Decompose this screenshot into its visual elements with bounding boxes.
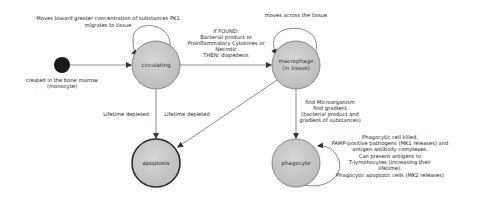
svg-text:gradient of substances): gradient of substances) — [299, 117, 360, 124]
svg-text:lifetime).: lifetime). — [378, 165, 402, 171]
label-phagocyte-self: Phagocytic cell killed, PAMP-positive pa… — [332, 134, 449, 179]
state-circulating-label: circulating — [141, 62, 171, 69]
svg-text:antigen-antibody complexes.: antigen-antibody complexes. — [352, 146, 428, 153]
state-apoptosis[interactable]: apoptosis — [132, 139, 180, 187]
label-circulating-to-apoptosis: Lifetime depleted — [103, 111, 149, 118]
initial-label-line2: (monocyte) — [47, 83, 77, 90]
state-circulating[interactable]: circulating — [132, 41, 180, 89]
label-macrophage-to-phagocyte: find Microorganism find gradient (bacter… — [299, 99, 360, 124]
svg-text:moves across the tissue: moves across the tissue — [265, 12, 328, 18]
state-macrophage-label-line1: macrophage — [278, 58, 314, 65]
state-macrophage-label-line2: (in tissue) — [282, 65, 310, 71]
state-phagocyte[interactable]: phagocyte — [272, 139, 320, 187]
svg-text:THEN: diapedesis: THEN: diapedesis — [202, 52, 249, 59]
state-phagocyte-label: phagocyte — [281, 160, 311, 167]
state-apoptosis-label: apoptosis — [143, 160, 170, 167]
label-circulating-self: Moves toward greater concentration of su… — [36, 15, 180, 29]
state-diagram: created in the bone marrow (monocyte) ci… — [0, 0, 483, 199]
svg-text:Moves toward greater concentra: Moves toward greater concentration of su… — [36, 15, 180, 22]
state-macrophage[interactable]: macrophage (in tissue) — [272, 41, 320, 89]
label-macrophage-self: moves across the tissue — [265, 12, 328, 18]
svg-text:Lifetime depleted: Lifetime depleted — [164, 111, 210, 118]
initial-node[interactable] — [54, 57, 70, 73]
svg-text:Phagocytic apoptotic cells (MK: Phagocytic apoptotic cells (MK2 releases… — [336, 172, 444, 179]
label-circulating-to-macrophage: If FOUND: Bacterial product or Proinflam… — [187, 28, 265, 59]
svg-text:migrates to tissue: migrates to tissue — [85, 22, 132, 29]
label-macrophage-to-apoptosis: Lifetime depleted — [164, 111, 210, 118]
svg-text:Lifetime depleted: Lifetime depleted — [103, 111, 149, 118]
